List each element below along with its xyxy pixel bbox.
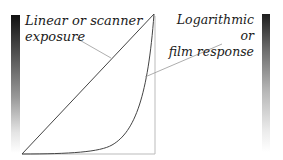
log-label-line-1: Logarithmic or <box>162 12 254 44</box>
linear-exposure-label: Linear or scanner exposure <box>25 13 142 45</box>
log-label-line-2: film response <box>162 44 254 60</box>
linear-label-line-1: Linear or scanner <box>25 13 142 29</box>
log-response-label: Logarithmic or film response <box>162 12 254 60</box>
linear-label-line-2: exposure <box>25 29 142 45</box>
